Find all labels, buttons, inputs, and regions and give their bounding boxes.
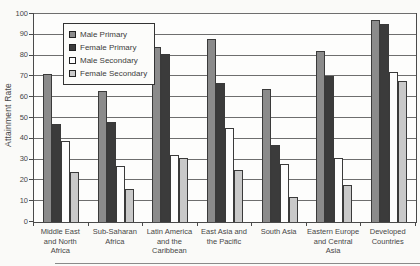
y-tick-label: 80: [4, 50, 28, 59]
x-tick-mark: [415, 222, 416, 226]
legend-item-male-secondary: Male Secondary: [69, 54, 147, 67]
bar-female-secondary-south-asia: [289, 197, 298, 222]
legend-label: Female Secondary: [80, 69, 147, 78]
x-category-label-east-asia-and-the-pacific: East Asia and the Pacific: [201, 227, 247, 246]
x-category-label-middle-east-and-north-africa: Middle East and North Africa: [41, 227, 80, 256]
y-tick-label: 90: [4, 29, 28, 38]
gridline-100: [34, 13, 416, 14]
bar-female-secondary-latin-america-and-the-caribbean: [179, 158, 188, 222]
x-category-label-developed-countries: Developed Countries: [370, 227, 406, 246]
y-tick-label: 60: [4, 92, 28, 101]
bar-male-secondary-sub-saharan-africa: [116, 166, 125, 222]
bar-male-secondary-developed-countries: [389, 72, 398, 222]
legend-item-female-secondary: Female Secondary: [69, 67, 147, 80]
bar-male-primary-sub-saharan-africa: [98, 91, 107, 222]
legend-swatch-icon: [69, 31, 76, 38]
bar-female-secondary-sub-saharan-africa: [125, 189, 134, 222]
legend-swatch-icon: [69, 44, 76, 51]
bar-female-primary-south-asia: [271, 145, 280, 222]
x-category-label-south-asia: South Asia: [261, 227, 297, 237]
bar-female-primary-latin-america-and-the-caribbean: [161, 54, 170, 222]
legend-item-male-primary: Male Primary: [69, 28, 147, 41]
bar-female-primary-east-asia-and-the-pacific: [216, 83, 225, 222]
y-tick-label: 40: [4, 133, 28, 142]
bar-male-secondary-eastern-europe-and-central-asia: [334, 158, 343, 222]
legend: Male PrimaryFemale PrimaryMale Secondary…: [63, 23, 155, 85]
y-tick-label: 10: [4, 196, 28, 205]
y-tick-label: 20: [4, 175, 28, 184]
bar-male-secondary-east-asia-and-the-pacific: [225, 128, 234, 222]
x-tick-mark: [88, 222, 89, 226]
y-tick-label: 50: [4, 113, 28, 122]
legend-label: Female Primary: [80, 43, 136, 52]
bar-male-secondary-middle-east-and-north-africa: [61, 141, 70, 222]
bar-male-primary-eastern-europe-and-central-asia: [316, 51, 325, 222]
bar-male-primary-east-asia-and-the-pacific: [207, 39, 216, 222]
legend-swatch-icon: [69, 57, 76, 64]
bar-female-secondary-east-asia-and-the-pacific: [234, 170, 243, 222]
x-category-label-eastern-europe-and-central-asia: Eastern Europe and Central Asia: [307, 227, 359, 256]
bar-male-secondary-latin-america-and-the-caribbean: [170, 155, 179, 222]
x-tick-mark: [197, 222, 198, 226]
y-tick-label: 100: [4, 9, 28, 18]
x-tick-mark: [142, 222, 143, 226]
gridline-60: [34, 96, 416, 97]
x-tick-mark: [360, 222, 361, 226]
x-tick-mark: [306, 222, 307, 226]
attainment-rate-bar-chart: Attainment Rate 0102030405060708090100 M…: [0, 0, 420, 266]
y-tick-label: 0: [4, 217, 28, 226]
legend-item-female-primary: Female Primary: [69, 41, 147, 54]
bar-male-primary-south-asia: [262, 89, 271, 222]
bar-female-secondary-middle-east-and-north-africa: [70, 172, 79, 222]
bar-female-primary-middle-east-and-north-africa: [52, 124, 61, 222]
x-category-label-sub-saharan-africa: Sub-Saharan Africa: [93, 227, 137, 246]
bar-female-secondary-developed-countries: [398, 81, 407, 222]
bar-female-primary-sub-saharan-africa: [107, 122, 116, 222]
x-category-label-latin-america-and-the-caribbean: Latin America and the Caribbean: [147, 227, 192, 256]
bar-female-secondary-eastern-europe-and-central-asia: [343, 185, 352, 222]
legend-swatch-icon: [69, 70, 76, 77]
page-rule: [55, 263, 420, 264]
x-tick-mark: [33, 222, 34, 226]
bar-male-secondary-south-asia: [280, 164, 289, 222]
bar-male-primary-middle-east-and-north-africa: [43, 74, 52, 222]
gridline-50: [34, 117, 416, 118]
bar-male-primary-developed-countries: [371, 20, 380, 222]
legend-label: Male Secondary: [80, 56, 138, 65]
bar-female-primary-developed-countries: [380, 24, 389, 222]
plot-area: Male PrimaryFemale PrimaryMale Secondary…: [33, 13, 417, 223]
y-tick-label: 30: [4, 154, 28, 163]
bar-female-primary-eastern-europe-and-central-asia: [325, 76, 334, 222]
x-tick-mark: [251, 222, 252, 226]
y-tick-label: 70: [4, 71, 28, 80]
legend-label: Male Primary: [80, 30, 127, 39]
